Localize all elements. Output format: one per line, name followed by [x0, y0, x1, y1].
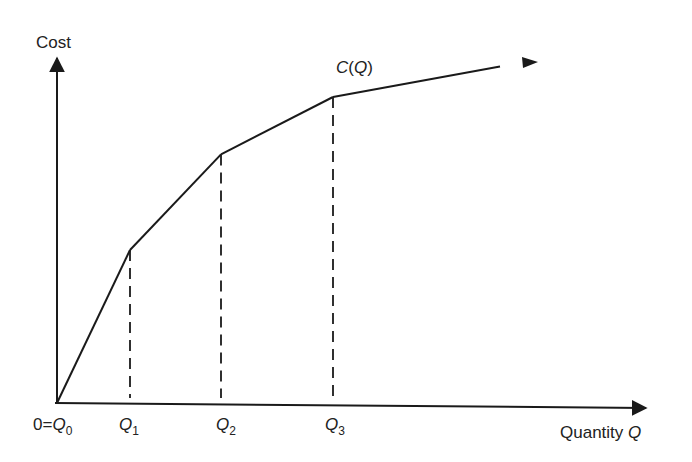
curve-func: C [336, 58, 349, 77]
x-axis-var: Q [628, 423, 641, 442]
dashed-guides [130, 97, 333, 398]
curve-segment-1 [57, 250, 130, 403]
curve-segment-2 [130, 154, 221, 250]
origin-var: Q [52, 415, 65, 434]
x-axis-label: Quantity Q [560, 423, 641, 442]
curve-segment-3 [221, 97, 333, 154]
y-axis-label: Cost [36, 33, 71, 52]
x-tick-label-q2: Q2 [216, 415, 236, 438]
x-tick-label-origin: 0=Q0 [33, 415, 73, 438]
x-tick-label-q1: Q1 [119, 415, 139, 438]
q3-var: Q [325, 415, 338, 434]
q1-sub: 1 [132, 424, 139, 438]
q3-sub: 3 [338, 424, 345, 438]
curve-close-paren: ) [367, 58, 373, 77]
q2-sub: 2 [229, 424, 236, 438]
x-axis-label-text: Quantity [560, 423, 624, 442]
q1-var: Q [119, 415, 132, 434]
origin-prefix: 0= [33, 415, 52, 434]
curve-label: C(Q) [336, 58, 373, 77]
x-axis [55, 403, 646, 408]
curve-arg: Q [354, 58, 367, 77]
cost-curve [57, 57, 538, 403]
cost-function-diagram: Cost Quantity Q C(Q) 0=Q0 Q1 Q2 Q3 [0, 0, 692, 462]
curve-arrowhead [522, 57, 538, 68]
x-tick-label-q3: Q3 [325, 415, 345, 438]
origin-sub: 0 [66, 424, 73, 438]
q2-var: Q [216, 415, 229, 434]
